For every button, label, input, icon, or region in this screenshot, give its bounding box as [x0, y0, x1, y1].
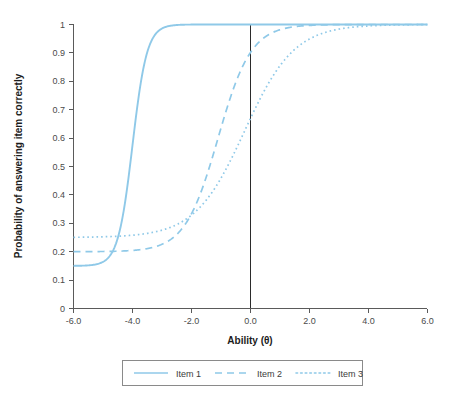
- x-tick-label--2.0: -2.0: [184, 316, 200, 326]
- x-tick-label--6.0: -6.0: [66, 316, 82, 326]
- legend-label-item-3: Item 3: [338, 369, 363, 379]
- y-tick-label-0.4: 0.4: [52, 190, 65, 200]
- x-tick-label-6.0: 6.0: [421, 316, 434, 326]
- y-axis-ticks: [69, 25, 73, 309]
- x-tick-label--4.0: -4.0: [125, 316, 141, 326]
- y-tick-label-0.7: 0.7: [52, 105, 65, 115]
- x-axis-ticks: [74, 309, 428, 314]
- y-axis-title: Probability of answering item correctly: [13, 73, 24, 258]
- y-tick-label-0.3: 0.3: [52, 218, 65, 228]
- legend-label-item-2: Item 2: [257, 369, 282, 379]
- x-axis-title: Ability (θ): [227, 335, 272, 346]
- y-tick-label-0.9: 0.9: [52, 48, 65, 58]
- legend-label-item-1: Item 1: [176, 369, 201, 379]
- y-axis-tick-labels: 1 0.9 0.8 0.7 0.6 0.5 0.4 0.3 0.2 0.1 0: [52, 20, 65, 314]
- y-tick-label-0.2: 0.2: [52, 247, 65, 257]
- x-tick-label-2.0: 2.0: [303, 316, 316, 326]
- x-tick-label-4.0: 4.0: [362, 316, 375, 326]
- y-tick-label-1: 1: [60, 20, 65, 30]
- y-tick-label-0.8: 0.8: [52, 76, 65, 86]
- y-tick-label-0: 0: [60, 304, 65, 314]
- item-characteristic-curve-chart: 1 0.9 0.8 0.7 0.6 0.5 0.4 0.3 0.2 0.1 0 …: [0, 0, 450, 400]
- y-tick-label-0.1: 0.1: [52, 275, 65, 285]
- y-tick-label-0.5: 0.5: [52, 162, 65, 172]
- x-tick-label-0.0: 0.0: [244, 316, 257, 326]
- y-tick-label-0.6: 0.6: [52, 133, 65, 143]
- chart-legend: Item 1 Item 2 Item 3: [123, 361, 364, 386]
- chart-canvas: 1 0.9 0.8 0.7 0.6 0.5 0.4 0.3 0.2 0.1 0 …: [0, 0, 450, 400]
- x-axis-tick-labels: -6.0 -4.0 -2.0 0.0 2.0 4.0 6.0: [66, 316, 434, 326]
